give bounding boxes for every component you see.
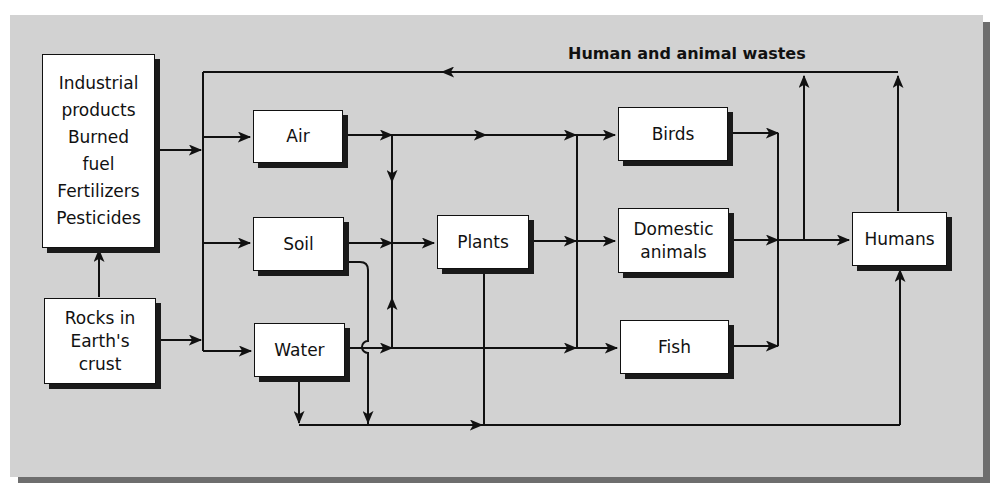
node-label: Earth's bbox=[70, 330, 129, 353]
node-air: Air bbox=[253, 110, 343, 163]
node-label: Humans bbox=[864, 228, 934, 251]
node-humans: Humans bbox=[852, 212, 947, 266]
node-label: Domestic bbox=[633, 218, 713, 241]
node-domestic-animals: Domestic animals bbox=[618, 208, 729, 273]
node-rocks: Rocks in Earth's crust bbox=[44, 298, 156, 384]
node-label: Pesticides bbox=[56, 205, 141, 232]
node-label: Air bbox=[286, 125, 309, 148]
node-label: Burned bbox=[68, 124, 129, 151]
node-label: Rocks in bbox=[65, 307, 135, 330]
node-soil: Soil bbox=[253, 217, 344, 271]
node-water: Water bbox=[254, 323, 345, 377]
node-label: Water bbox=[274, 339, 324, 362]
node-fish: Fish bbox=[620, 320, 729, 374]
node-label: Birds bbox=[652, 123, 695, 146]
node-label: Fertilizers bbox=[57, 178, 139, 205]
node-label: Soil bbox=[283, 233, 314, 256]
node-plants: Plants bbox=[437, 215, 529, 269]
node-label: animals bbox=[640, 241, 706, 264]
node-pollution-sources: Industrial products Burned fuel Fertiliz… bbox=[42, 54, 155, 248]
node-label: Plants bbox=[457, 231, 509, 254]
node-label: Fish bbox=[658, 336, 691, 359]
edge-label-wastes: Human and animal wastes bbox=[568, 44, 806, 63]
node-label: products bbox=[61, 97, 135, 124]
node-label: fuel bbox=[83, 151, 115, 178]
node-label: Industrial bbox=[59, 70, 139, 97]
node-label: crust bbox=[79, 353, 122, 376]
node-birds: Birds bbox=[618, 107, 728, 161]
